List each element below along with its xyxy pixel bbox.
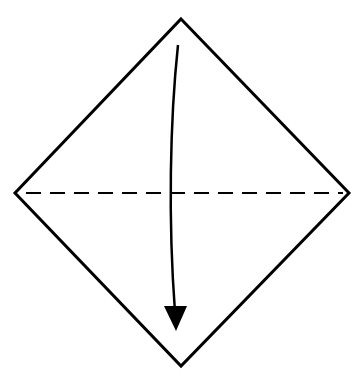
diagram-svg	[0, 0, 354, 384]
origami-diagram	[0, 0, 354, 384]
